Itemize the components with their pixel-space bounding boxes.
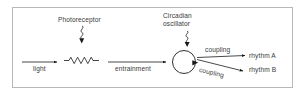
label-circadian-line2: oscillator xyxy=(163,20,190,27)
label-rhythm-b: rhythm B xyxy=(249,66,276,74)
transduction-zigzag xyxy=(64,57,99,63)
label-circadian-oscillator: Circadian oscillator xyxy=(163,12,192,27)
label-entrainment: entrainment xyxy=(115,65,151,73)
figure-root: Photoreceptor Circadian oscillator light… xyxy=(0,0,306,97)
label-rhythm-a: rhythm A xyxy=(249,52,276,60)
label-circadian-line1: Circadian xyxy=(163,12,192,19)
label-photoreceptor: Photoreceptor xyxy=(58,16,101,24)
coupling-arrow-a xyxy=(197,56,245,58)
diagram-canvas xyxy=(0,0,306,97)
circadian-oscillator-circle xyxy=(173,51,199,74)
photoreceptor-squiggle-arrow xyxy=(79,26,84,43)
circadian-input-squiggle-arrow xyxy=(185,31,190,47)
label-light: light xyxy=(33,65,46,73)
label-coupling-a: coupling xyxy=(205,46,230,54)
